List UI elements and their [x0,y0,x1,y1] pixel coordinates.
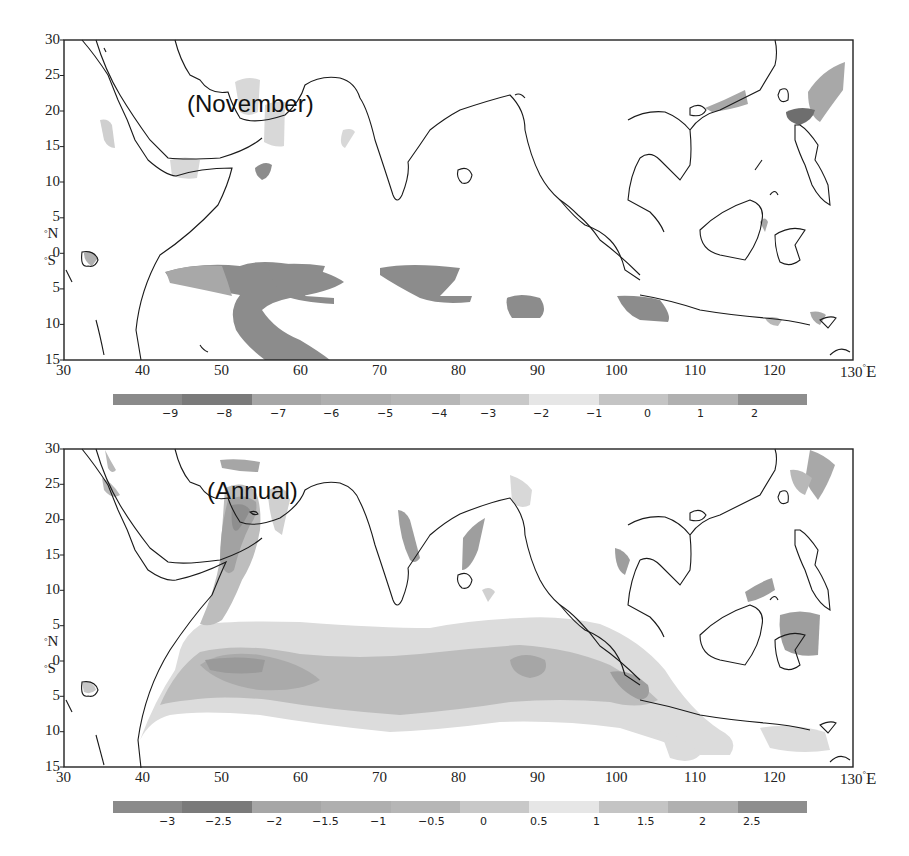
colorbar-label: −1.5 [312,815,339,828]
y-tick-label: 10 [45,723,60,738]
x-tick-label: 100 [605,362,628,379]
annual-panel: (Annual) 30 25 20 15 10 5 0 5 10 15 °N °… [0,410,909,856]
plot-frame [64,40,853,360]
y-tick-label: 5 [53,280,61,295]
colorbar-swatch [668,394,737,405]
colorbar-swatch [113,394,182,405]
colorbar-label: 0 [480,815,487,828]
x-tick-label: 60 [293,769,308,786]
colorbar-swatch [738,801,807,813]
y-tick-label: 5 [53,617,61,632]
panel-title-annual: (Annual) [207,477,298,505]
x-tick-label: 130 [840,771,863,787]
colorbar-november [113,394,807,405]
x-tick-label: 90 [530,362,545,379]
x-tick-label: 40 [135,769,150,786]
colorbar-label: 0.5 [530,815,548,828]
coastlines [66,40,850,360]
x-tick-label: 100 [605,769,628,786]
x-tick-label: 110 [684,769,706,786]
y-tick-label: 25 [45,476,60,491]
x-tick-label: 130 [840,364,863,380]
colorbar-swatch [599,801,668,813]
colorbar-swatch [599,394,668,405]
y-tick-label: 5 [53,688,61,703]
x-tick-label: 120 [763,769,786,786]
colorbar-swatch [738,394,807,405]
colorbar-swatch [321,801,390,813]
colorbar-swatch [391,394,460,405]
panel-title-november: (November) [187,90,314,118]
colorbar-swatch [529,801,598,813]
colorbar-swatch [391,801,460,813]
colorbar-annual [113,801,807,813]
x-tick-label: 110 [684,362,706,379]
x-tick-labels: 30 40 50 60 70 80 90 100 110 120 130°E [0,769,909,789]
colorbar-swatch [182,394,251,405]
y-tick-label: 20 [45,511,60,526]
annual-map [0,410,909,856]
colorbar-label: 1.5 [637,815,655,828]
x-tick-label: 30 [56,769,71,786]
colorbar-swatch [321,394,390,405]
x-tick-label: 60 [293,362,308,379]
south-label: S [48,252,56,268]
x-tick-label: 70 [372,362,387,379]
colorbar-label: 1 [593,815,600,828]
y-tick-label: 10 [45,316,60,331]
y-tick-label: 10 [45,582,60,597]
colorbar-label: −0.5 [418,815,445,828]
colorbar-swatch [668,801,737,813]
north-label: N [48,225,59,241]
colorbar-label: 2 [699,815,706,828]
colorbar-label: 2.5 [743,815,761,828]
november-map [0,0,909,420]
x-tick-label: 50 [214,362,229,379]
lat-hemisphere-label: °N °S [44,226,58,268]
colorbar-swatch [252,801,321,813]
y-tick-label: 30 [45,32,60,47]
y-tick-label: 5 [53,209,61,224]
colorbar-swatch [182,801,251,813]
x-axis-end-label: 130°E [840,362,877,382]
y-tick-label: 15 [45,547,60,562]
x-tick-label: 40 [135,362,150,379]
colorbar-swatch [460,394,529,405]
east-label: E [866,362,876,381]
x-tick-label: 80 [451,769,466,786]
x-tick-label: 30 [56,362,71,379]
x-axis-end-label: 130°E [840,769,877,789]
colorbar-swatch [460,801,529,813]
anomaly-shading [82,450,835,761]
north-label: N [48,633,59,649]
east-label: E [866,769,876,788]
x-tick-label: 90 [530,769,545,786]
colorbar-label: −2.5 [205,815,232,828]
colorbar-label: −1 [370,815,386,828]
colorbar-label: −3 [159,815,175,828]
x-tick-labels: 30 40 50 60 70 80 90 100 110 120 130°E [0,362,909,382]
y-tick-label: 15 [45,138,60,153]
y-tick-label: 25 [45,67,60,82]
x-tick-label: 70 [372,769,387,786]
colorbar-swatch [113,801,182,813]
lat-hemisphere-label: °N °S [44,634,58,676]
y-tick-label: 10 [45,174,60,189]
south-label: S [48,660,56,676]
colorbar-swatch [252,394,321,405]
november-panel: (November) 30 25 20 15 10 5 0 5 10 15 °N… [0,0,909,420]
x-tick-label: 50 [214,769,229,786]
y-tick-label: 30 [45,441,60,456]
x-tick-label: 80 [451,362,466,379]
colorbar-swatch [529,394,598,405]
x-tick-label: 120 [763,362,786,379]
colorbar-label: −2 [266,815,282,828]
y-tick-label: 20 [45,103,60,118]
